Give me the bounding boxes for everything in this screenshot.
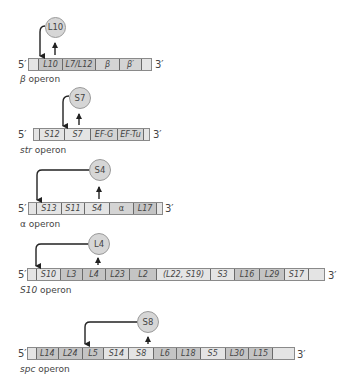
s10-operon-repression-arrow: [36, 244, 88, 266]
feedback-arrows: [0, 0, 354, 380]
str-operon-repression-arrow: [63, 96, 69, 126]
spc-operon-repression-arrow: [85, 322, 137, 344]
beta-operon-repression-arrow: [40, 26, 45, 56]
alpha-operon-repression-arrow: [37, 170, 89, 200]
